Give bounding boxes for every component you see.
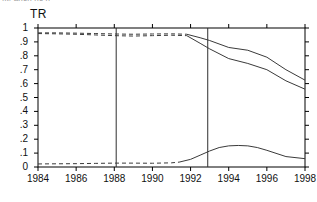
x-tick-label: 1986 xyxy=(58,173,94,184)
axis-frame xyxy=(38,28,305,167)
vertical-reference-lines xyxy=(116,28,208,167)
y-tick-label: .6 xyxy=(6,78,28,89)
y-tick-label: .9 xyxy=(6,36,28,47)
series-line-solid xyxy=(187,36,305,90)
x-tick-label: 1988 xyxy=(96,173,132,184)
y-tick-label: 1 xyxy=(6,22,28,33)
x-tick-label: 1992 xyxy=(173,173,209,184)
x-tick-label: 1994 xyxy=(211,173,247,184)
y-tick-label: .2 xyxy=(6,133,28,144)
y-tick-label: .5 xyxy=(6,92,28,103)
series-line-solid xyxy=(179,145,305,162)
data-series-lines xyxy=(38,33,305,164)
y-tick-label: .3 xyxy=(6,119,28,130)
chart-figure: fit: anch nc n TR 0.1.2.3.4.5.6.7.8.91 1… xyxy=(0,0,317,202)
x-tick-label: 1990 xyxy=(134,173,170,184)
tick-marks xyxy=(34,24,309,171)
y-tick-label: .1 xyxy=(6,147,28,158)
series-line-solid xyxy=(187,34,305,80)
y-tick-label: .7 xyxy=(6,64,28,75)
plot-area xyxy=(0,0,317,202)
plot-border xyxy=(38,28,305,167)
x-tick-label: 1996 xyxy=(249,173,285,184)
x-tick-label: 1984 xyxy=(20,173,56,184)
y-tick-label: .4 xyxy=(6,105,28,116)
series-line-dashed xyxy=(38,162,179,164)
y-tick-label: 0 xyxy=(6,161,28,172)
x-tick-label: 1998 xyxy=(287,173,317,184)
y-tick-label: .8 xyxy=(6,50,28,61)
